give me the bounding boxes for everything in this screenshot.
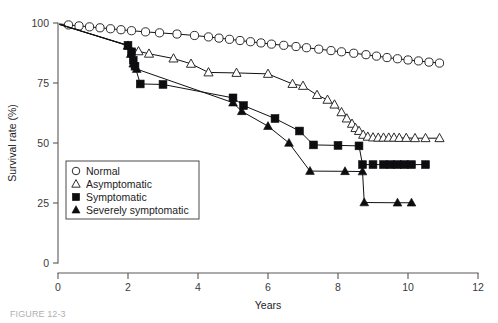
marker-filled-square bbox=[380, 161, 388, 169]
marker-open-triangle bbox=[312, 90, 321, 98]
marker-open-circle bbox=[362, 51, 370, 59]
marker-filled-square bbox=[136, 80, 144, 88]
legend-label: Normal bbox=[86, 165, 120, 177]
figure-root: 0255075100024681012 NormalAsymptomaticSy… bbox=[0, 0, 498, 323]
marker-open-circle bbox=[225, 35, 233, 43]
marker-open-circle bbox=[155, 29, 163, 37]
marker-filled-square bbox=[296, 127, 304, 135]
marker-open-circle bbox=[414, 57, 422, 65]
marker-open-circle bbox=[257, 39, 265, 47]
marker-open-circle bbox=[96, 24, 104, 32]
x-tick-label: 8 bbox=[335, 281, 341, 293]
y-tick-label: 100 bbox=[31, 17, 49, 29]
x-tick-label: 12 bbox=[472, 281, 484, 293]
x-tick-label: 2 bbox=[125, 281, 131, 293]
figure-caption: FIGURE 12-3 bbox=[0, 309, 498, 323]
marker-filled-square bbox=[72, 193, 79, 200]
marker-filled-square bbox=[369, 161, 377, 169]
marker-open-circle bbox=[337, 48, 345, 56]
marker-filled-square bbox=[159, 81, 167, 89]
legend-item-severely-symptomatic: Severely symptomatic bbox=[72, 204, 189, 216]
marker-open-circle bbox=[173, 30, 181, 38]
y-tick-label: 0 bbox=[43, 257, 49, 269]
marker-open-circle bbox=[393, 55, 401, 63]
marker-open-triangle bbox=[323, 95, 332, 103]
legend-label: Severely symptomatic bbox=[86, 204, 189, 216]
x-tick-label: 6 bbox=[265, 281, 271, 293]
series-line bbox=[60, 24, 426, 164]
marker-filled-square bbox=[355, 142, 363, 150]
x-tick-label: 4 bbox=[195, 281, 201, 293]
marker-filled-triangle bbox=[341, 167, 350, 175]
marker-filled-square bbox=[422, 161, 430, 169]
survival-curve-chart: 0255075100024681012 NormalAsymptomaticSy… bbox=[0, 0, 498, 323]
marker-filled-square bbox=[310, 141, 318, 149]
marker-open-circle bbox=[215, 34, 223, 42]
marker-open-circle bbox=[435, 59, 443, 67]
marker-open-circle bbox=[280, 41, 288, 49]
marker-open-circle bbox=[372, 52, 380, 60]
marker-open-triangle bbox=[435, 133, 444, 141]
marker-filled-triangle bbox=[407, 198, 416, 206]
marker-open-circle bbox=[190, 31, 198, 39]
y-tick-label: 25 bbox=[37, 197, 49, 209]
marker-filled-triangle bbox=[285, 138, 294, 146]
marker-open-circle bbox=[267, 40, 275, 48]
marker-open-triangle bbox=[421, 133, 430, 141]
legend-label: Asymptomatic bbox=[86, 178, 152, 190]
marker-open-circle bbox=[292, 42, 300, 50]
marker-open-circle bbox=[350, 49, 358, 57]
marker-open-circle bbox=[404, 56, 412, 64]
series-normal bbox=[60, 21, 444, 67]
legend-label: Symptomatic bbox=[86, 191, 147, 203]
marker-open-circle bbox=[204, 33, 212, 41]
marker-open-circle bbox=[302, 44, 310, 52]
y-tick-label: 50 bbox=[37, 137, 49, 149]
marker-open-circle bbox=[141, 28, 149, 36]
marker-open-circle bbox=[75, 22, 83, 30]
marker-open-triangle bbox=[204, 68, 213, 76]
marker-filled-triangle bbox=[360, 198, 369, 206]
marker-filled-triangle bbox=[264, 122, 273, 130]
y-tick-label: 75 bbox=[37, 77, 49, 89]
marker-open-circle bbox=[85, 23, 93, 31]
series-symptomatic bbox=[60, 24, 430, 168]
marker-open-circle bbox=[127, 27, 135, 35]
marker-open-circle bbox=[117, 26, 125, 34]
marker-open-circle bbox=[246, 38, 254, 46]
marker-open-triangle bbox=[232, 68, 241, 76]
marker-filled-triangle bbox=[393, 198, 402, 206]
marker-filled-square bbox=[387, 161, 395, 169]
marker-open-circle bbox=[72, 167, 80, 175]
marker-filled-square bbox=[334, 142, 342, 150]
marker-open-triangle bbox=[402, 133, 411, 141]
marker-open-circle bbox=[315, 45, 323, 53]
marker-filled-square bbox=[394, 161, 402, 169]
x-tick-label: 0 bbox=[55, 281, 61, 293]
marker-filled-square bbox=[408, 161, 416, 169]
marker-open-circle bbox=[106, 25, 114, 33]
y-axis-title: Survival rate (%) bbox=[6, 104, 18, 182]
marker-open-circle bbox=[383, 53, 391, 61]
marker-open-triangle bbox=[288, 79, 297, 87]
marker-open-circle bbox=[236, 36, 244, 44]
x-tick-label: 10 bbox=[402, 281, 414, 293]
marker-open-circle bbox=[327, 47, 335, 55]
marker-open-triangle bbox=[410, 133, 419, 141]
marker-filled-square bbox=[401, 161, 409, 169]
chart-legend: NormalAsymptomaticSymptomaticSeverely sy… bbox=[66, 161, 199, 219]
marker-filled-square bbox=[271, 115, 279, 123]
marker-open-triangle bbox=[263, 69, 272, 77]
marker-open-circle bbox=[425, 58, 433, 66]
